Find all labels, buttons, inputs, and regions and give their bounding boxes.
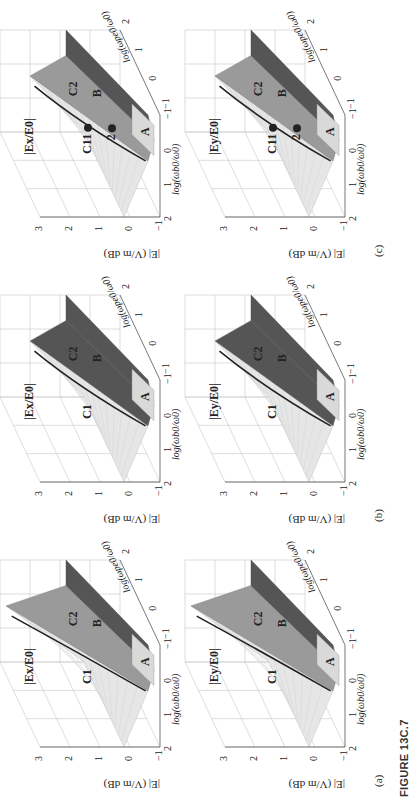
y-tick-label: 0 [332,76,343,81]
panel-title: |Ex/E0| [22,383,37,420]
z-tick-label: 0 [308,491,319,496]
z-tick-label: 1 [93,491,104,496]
y-tick-label: 2 [120,19,131,24]
y-tick-label: 0 [332,606,343,611]
region-label-b: B [275,354,290,362]
y-tick-label: −1 [160,628,171,639]
region-label-c1: C1 [80,404,95,419]
y-tick-label: 1 [318,312,329,317]
y-tick-label: 0 [147,76,158,81]
z-axis-label: |E| (V/m dB) [289,779,345,791]
z-tick-label: 3 [218,756,229,761]
z-tick-label: 1 [278,226,289,231]
marker-point-1 [269,124,277,132]
y-tick-label: −1 [345,628,356,639]
y-tick-label: 2 [305,19,316,24]
x-tick-label: −1 [162,108,173,119]
region-label-b: B [275,89,290,97]
z-tick-label: 1 [278,756,289,761]
y-tick-label: 1 [133,577,144,582]
marker-label-2: 2 [104,134,119,140]
region-label-c1: C1 [265,669,280,684]
region-label-c2: C2 [66,82,81,97]
region-label-a: A [323,392,338,401]
z-tick-label: −1 [338,220,349,231]
rotated-figure-canvas: 3210−1|E| (V/m dB)|Ex/E0|C1C2AB210−1log(… [0,0,415,805]
y-tick-label: 1 [318,577,329,582]
z-axis-label: |E| (V/m dB) [104,249,160,261]
z-tick-label: 1 [93,226,104,231]
panel-title: |Ey/E0| [207,383,222,420]
region-label-c1: C1 [80,139,95,154]
x-tick-label: −1 [347,108,358,119]
region-label-c2: C2 [66,347,81,362]
x-tick-label: 2 [347,746,358,751]
y-tick-label: 2 [120,284,131,289]
z-axis-label: |E| (V/m dB) [289,514,345,526]
z-tick-label: 2 [248,756,259,761]
region-label-a: A [323,127,338,136]
x-tick-label: 2 [347,216,358,221]
y-tick-label: 2 [305,549,316,554]
z-tick-label: −1 [153,220,164,231]
x-axis-label: log(ωb0/ω0) [355,144,366,195]
x-tick-label: 2 [347,481,358,486]
x-tick-label: 2 [162,216,173,221]
panel-b-ey: 3210−1|E| (V/m dB)|Ey/E0|C1C2AB210−1log(… [195,265,370,530]
panel-title: |Ey/E0| [207,118,222,155]
x-axis-label: log(ωb0/ω0) [355,409,366,460]
z-axis-label: |E| (V/m dB) [289,249,345,261]
y-tick-label: 2 [120,549,131,554]
panel-c-ey: 123210−1|E| (V/m dB)|Ey/E0|C1C2AB210−1lo… [195,0,370,265]
y-tick-label: 1 [133,312,144,317]
z-tick-label: 3 [33,491,44,496]
region-label-b: B [275,619,290,627]
panel-title: |Ex/E0| [22,648,37,685]
region-label-a: A [138,657,153,666]
y-tick-label: 0 [147,341,158,346]
z-tick-label: 3 [33,756,44,761]
caption-a: (a) [372,775,384,787]
y-tick-label: 0 [332,341,343,346]
z-tick-label: 0 [123,491,134,496]
y-tick-label: −1 [345,363,356,374]
x-tick-label: −1 [347,373,358,384]
x-axis-label: log(ωb0/ω0) [170,409,181,460]
x-tick-label: 2 [162,746,173,751]
z-tick-label: −1 [338,750,349,761]
z-tick-label: −1 [153,750,164,761]
region-label-b: B [90,89,105,97]
y-tick-label: 1 [133,47,144,52]
region-label-c1: C1 [80,669,95,684]
x-tick-label: −1 [347,638,358,649]
panel-title: |Ex/E0| [22,118,37,155]
z-tick-label: 0 [123,756,134,761]
region-label-a: A [323,657,338,666]
region-label-c2: C2 [66,612,81,627]
region-label-c2: C2 [251,612,266,627]
region-label-a: A [138,392,153,401]
caption-c: (c) [372,245,384,257]
panel-title: |Ey/E0| [207,648,222,685]
y-tick-label: −1 [160,98,171,109]
z-tick-label: 2 [63,226,74,231]
z-tick-label: 2 [63,756,74,761]
region-label-b: B [90,619,105,627]
y-tick-label: 1 [318,47,329,52]
z-tick-label: −1 [338,485,349,496]
z-tick-label: 0 [308,756,319,761]
z-tick-label: 1 [93,756,104,761]
z-tick-label: 2 [63,491,74,496]
marker-point-2 [108,124,116,132]
z-tick-label: 3 [218,226,229,231]
z-tick-label: −1 [153,485,164,496]
caption-b: (b) [372,509,384,522]
y-tick-label: 0 [147,606,158,611]
z-axis-label: |E| (V/m dB) [104,514,160,526]
panel-a-ey: 3210−1|E| (V/m dB)|Ey/E0|C1C2AB210−1log(… [195,530,370,795]
marker-point-2 [293,124,301,132]
z-tick-label: 0 [308,226,319,231]
z-tick-label: 0 [123,226,134,231]
panel-b-ex: 3210−1|E| (V/m dB)|Ex/E0|C1C2AB210−1log(… [10,265,185,530]
z-tick-label: 3 [218,491,229,496]
